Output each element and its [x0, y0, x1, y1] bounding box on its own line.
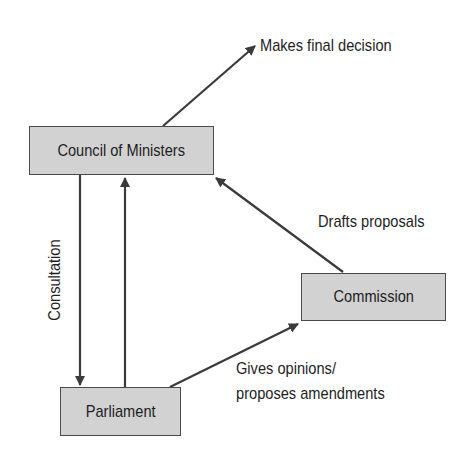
- node-label: Council of Ministers: [58, 141, 186, 161]
- node-label: Commission: [333, 287, 413, 307]
- label-gives-opinions: Gives opinions/: [236, 359, 336, 379]
- node-label: Parliament: [86, 402, 156, 422]
- label-proposes-amendments: proposes amendments: [236, 384, 385, 404]
- node-council-of-ministers: Council of Ministers: [29, 126, 214, 175]
- node-commission: Commission: [301, 273, 446, 321]
- node-parliament: Parliament: [60, 387, 181, 436]
- arrow-council-to-final-decision: [163, 46, 255, 126]
- label-makes-final-decision: Makes final decision: [260, 36, 392, 56]
- label-drafts-proposals: Drafts proposals: [318, 212, 424, 232]
- label-consultation: Consultation: [45, 237, 65, 323]
